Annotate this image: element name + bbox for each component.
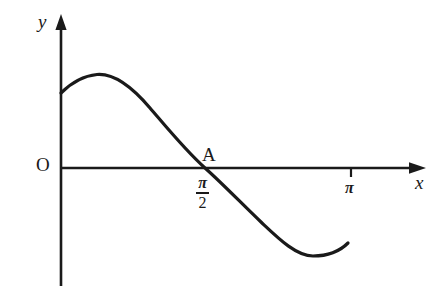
point-a-label: A [202,145,216,164]
x-tick-label-pi-over-2: π 2 [196,175,209,211]
curve-cosine [61,74,348,256]
fraction-denominator: 2 [198,195,208,211]
y-axis-arrowhead-icon [55,14,66,30]
fraction-numerator: π [197,175,208,191]
x-axis-label: x [415,173,423,192]
figure-drawing [0,0,441,288]
x-tick-label-pi: π [345,180,354,196]
y-axis [55,14,66,286]
figure-canvas: y O A π 2 π x [0,0,441,288]
x-axis [61,162,426,174]
origin-label: O [36,155,50,174]
y-axis-label: y [38,12,46,31]
